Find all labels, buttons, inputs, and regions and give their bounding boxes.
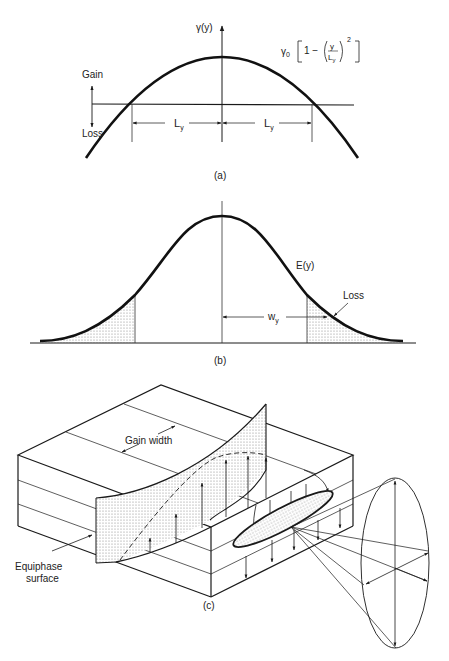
svg-text:y: y (330, 42, 334, 51)
Ey-curve-label: E(y) (296, 260, 314, 271)
gain-width-arrow (158, 426, 175, 434)
panel-b-caption: (b) (214, 355, 226, 366)
loss-pointer-arrow (334, 303, 348, 316)
loss-label-b: Loss (343, 290, 364, 301)
panel-b-field-profile: wy E(y) Loss (b) (30, 201, 416, 366)
loss-label-a: Loss (82, 128, 103, 139)
parabola-formula: γ0 1 − y Ly 2 (281, 36, 359, 63)
left-loss-region (40, 295, 135, 343)
equiphase-label-line1: Equiphase (15, 561, 63, 572)
gamma-axis-label: γ(y) (196, 22, 213, 33)
gain-width-label: Gain width (125, 435, 172, 446)
panel-a-caption: (a) (214, 170, 226, 181)
svg-text:Ly: Ly (328, 53, 335, 63)
svg-text:2: 2 (347, 36, 351, 43)
field-gaussian-curve (40, 216, 403, 341)
equiphase-label-line2: surface (26, 573, 59, 584)
gain-label: Gain (82, 69, 103, 80)
ray-line (291, 527, 428, 551)
slab-bottom-right-edge (211, 526, 353, 597)
ray-line (291, 527, 396, 648)
ray-line (291, 527, 364, 585)
panel-a-gain-profile: Ly Ly Gain Loss γ(y) γ0 1 − y Ly 2 (a) (82, 22, 359, 181)
figure-canvas: Ly Ly Gain Loss γ(y) γ0 1 − y Ly 2 (a) (0, 0, 449, 661)
panel-c-laser-slab (18, 385, 429, 648)
output-beam-spot (228, 483, 337, 555)
far-field-diag-axis (395, 568, 427, 581)
right-loss-region (307, 295, 403, 343)
svg-text:1 −: 1 − (304, 45, 318, 56)
panel-c-caption: (c) (203, 600, 215, 611)
svg-text:γ0: γ0 (281, 46, 290, 58)
equiphase-pointer-arrow (52, 535, 92, 551)
